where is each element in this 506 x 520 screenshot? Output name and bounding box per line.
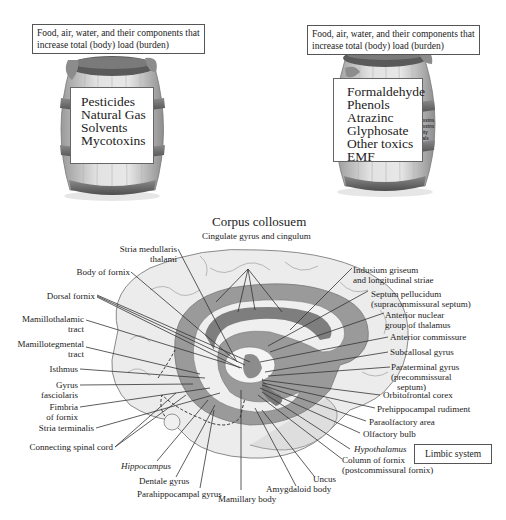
label-mamillotegmental-tract: Mamillotegmental tract	[6, 339, 84, 359]
label-uncus: Uncus	[313, 474, 336, 484]
label-septum-pellucidum: Septum pellucidum (supracommissural sept…	[371, 289, 471, 309]
label-stria-medullaris: Stria medullaris thalami	[112, 244, 177, 264]
legend-limbic-system: Limbic system	[414, 444, 492, 464]
label-gyrus-fasciolaris: Gyrus fasciolaris	[20, 380, 78, 400]
label-amygdaloid-body: Amygdaloid body	[266, 484, 331, 494]
label-connecting-spinal-cord: Connecting spinal cord	[6, 442, 113, 452]
label-body-of-fornix: Body of fornix	[60, 267, 130, 277]
label-hippocampus: Hippocampus	[121, 461, 171, 471]
label-fimbria-of-fornix: Fimbria of fornix	[20, 402, 78, 422]
label-stria-terminalis: Stria terminalis	[14, 423, 94, 433]
label-orbitofrontal-cortex: Orbitofrontal corex	[383, 390, 453, 400]
label-indusium-griseum: Indusium griseum and longitudinal striae	[353, 265, 433, 285]
label-mamillary-body: Mamillary body	[218, 494, 276, 504]
label-isthmus: Isthmus	[20, 364, 78, 374]
diagram-title: Corpus collosuem	[212, 214, 306, 230]
label-mamillothalamic-tract: Mamillothalamic tract	[10, 314, 84, 334]
label-dentale-gyrus: Dentale gyrus	[139, 476, 189, 486]
label-prehippocampal-rudiment: Prehippocampal rudiment	[377, 404, 470, 414]
label-anterior-commissure: Anterior commissure	[390, 332, 466, 342]
label-olfactory-bulb: Olfactory bulb	[363, 429, 416, 439]
label-paraterminal-gyrus: Paraterminal gyrus (precommissural septu…	[391, 362, 459, 392]
label-cingulate-gyrus: Cingulate gyrus and cingulum	[202, 231, 311, 241]
label-subcallosal-gyrus: Subcallosal gyrus	[390, 347, 454, 357]
label-parahippocampal-gyrus: Parahippocampal gyrus	[137, 489, 222, 499]
label-anterior-nuclear-group: Anterior nuclear group of thalamus	[385, 310, 451, 330]
label-hypothalamus: Hypothalamus	[354, 444, 407, 454]
label-dorsal-fornix: Dorsal fornix	[30, 291, 95, 301]
label-paraolfactory-area: Paraolfactory area	[369, 417, 435, 427]
